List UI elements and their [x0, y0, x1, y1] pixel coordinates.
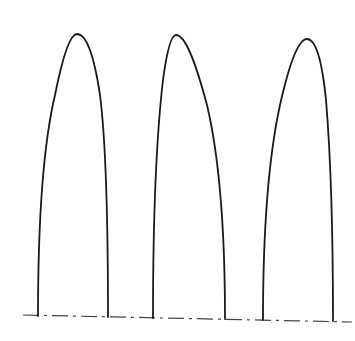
arch-profile-2: [153, 35, 225, 319]
arch-profiles-drawing: [0, 0, 355, 341]
arch-profile-3: [263, 39, 333, 321]
arch-profile-1: [38, 34, 108, 317]
diagram-canvas: [0, 0, 355, 341]
dash-dot-baseline: [23, 315, 352, 322]
